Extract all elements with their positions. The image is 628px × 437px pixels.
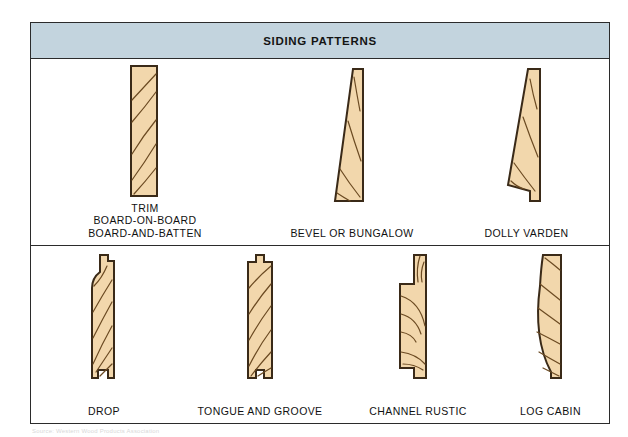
- bottom-row: DROP: [31, 246, 609, 423]
- pattern-cell-bevel: BEVEL OR BUNGALOW: [259, 59, 445, 245]
- trim-caption-line-1: TRIM: [88, 202, 202, 215]
- bevel-caption: BEVEL OR BUNGALOW: [290, 227, 413, 246]
- drop-illustration-wrap: [31, 246, 177, 405]
- trim-caption-line-2: BOARD-ON-BOARD: [88, 214, 202, 227]
- dolly-varden-caption-line-1: DOLLY VARDEN: [484, 227, 568, 240]
- channel-rustic-illustration-wrap: [343, 246, 493, 405]
- pattern-cell-tongue-and-groove: TONGUE AND GROOVE: [177, 246, 343, 423]
- pattern-cell-log-cabin: LOG CABIN: [493, 246, 608, 423]
- bevel-caption-line-1: BEVEL OR BUNGALOW: [290, 227, 413, 240]
- dolly-varden-caption: DOLLY VARDEN: [484, 227, 568, 246]
- drop-profile-icon: [78, 252, 130, 388]
- log-cabin-illustration-wrap: [493, 246, 608, 405]
- dolly-varden-illustration-wrap: [445, 59, 608, 227]
- top-row: TRIM BOARD-ON-BOARD BOARD-AND-BATTEN: [31, 59, 609, 246]
- trim-board-icon: [125, 62, 165, 202]
- channel-rustic-caption-line-1: CHANNEL RUSTIC: [369, 405, 466, 418]
- pattern-cell-drop: DROP: [31, 246, 177, 423]
- figure-credit: Source: Western Wood Products Associatio…: [32, 428, 159, 434]
- tongue-and-groove-illustration-wrap: [177, 246, 343, 405]
- log-cabin-caption-line-1: LOG CABIN: [520, 405, 581, 418]
- log-cabin-profile-icon: [523, 252, 579, 388]
- trim-illustration-wrap: [31, 56, 259, 202]
- pattern-cell-channel-rustic: CHANNEL RUSTIC: [343, 246, 493, 423]
- drop-caption: DROP: [88, 405, 120, 424]
- trim-caption: TRIM BOARD-ON-BOARD BOARD-AND-BATTEN: [88, 202, 202, 246]
- tongue-and-groove-caption-line-1: TONGUE AND GROOVE: [197, 405, 322, 418]
- tongue-and-groove-profile-icon: [234, 252, 286, 388]
- drop-caption-line-1: DROP: [88, 405, 120, 418]
- tongue-and-groove-caption: TONGUE AND GROOVE: [197, 405, 322, 424]
- bevel-illustration-wrap: [259, 59, 445, 227]
- dolly-varden-board-icon: [502, 65, 552, 205]
- figure-title: SIDING PATTERNS: [263, 35, 377, 47]
- trim-caption-line-3: BOARD-AND-BATTEN: [88, 227, 202, 240]
- figure-title-band: SIDING PATTERNS: [31, 23, 609, 59]
- log-cabin-caption: LOG CABIN: [520, 405, 581, 424]
- pattern-cell-trim: TRIM BOARD-ON-BOARD BOARD-AND-BATTEN: [31, 59, 259, 245]
- bevel-board-icon: [329, 65, 375, 205]
- pattern-cell-dolly-varden: DOLLY VARDEN: [445, 59, 608, 245]
- channel-rustic-caption: CHANNEL RUSTIC: [369, 405, 466, 424]
- siding-patterns-figure: SIDING PATTERNS: [30, 22, 610, 424]
- channel-rustic-profile-icon: [390, 252, 446, 388]
